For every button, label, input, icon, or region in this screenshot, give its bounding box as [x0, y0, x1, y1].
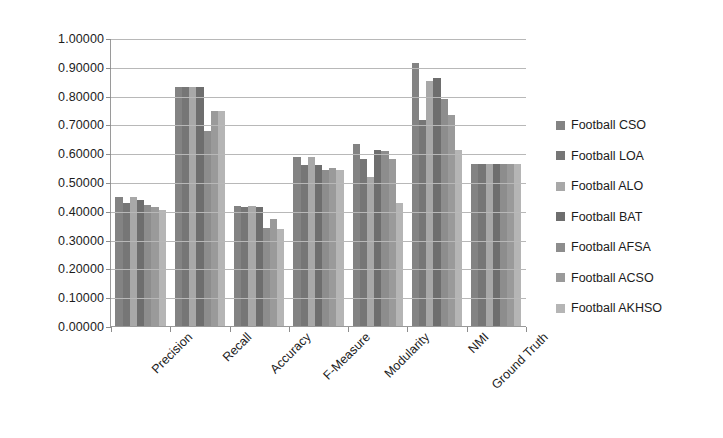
x-tick-label: Precision	[132, 330, 195, 393]
bar	[419, 120, 426, 327]
y-axis: 1.000000.900000.800000.700000.600000.500…	[14, 31, 104, 327]
legend-label: Football AKHSO	[571, 301, 662, 315]
y-tick-mark	[106, 212, 111, 213]
gridline	[111, 154, 526, 155]
gridline	[111, 183, 526, 184]
bar	[493, 164, 500, 327]
chart-legend: Football CSOFootball LOAFootball ALOFoot…	[556, 110, 721, 324]
bar	[256, 207, 263, 327]
bar	[507, 164, 514, 327]
gridline	[111, 39, 526, 40]
legend-label: Football BAT	[571, 210, 642, 224]
bar	[175, 87, 182, 327]
gridline	[111, 269, 526, 270]
bar	[270, 219, 277, 327]
bar	[123, 203, 130, 327]
y-tick-mark	[106, 125, 111, 126]
legend-swatch-icon	[556, 273, 565, 282]
legend-swatch-icon	[556, 121, 565, 130]
y-tick-mark	[106, 298, 111, 299]
bar	[151, 207, 158, 327]
y-tick-label: 0.60000	[58, 147, 104, 161]
bar	[159, 210, 166, 328]
y-tick-mark	[106, 241, 111, 242]
bar	[396, 203, 403, 327]
bar	[277, 229, 284, 327]
y-tick-label: 0.20000	[58, 262, 104, 276]
y-tick-label: 0.70000	[58, 118, 104, 132]
x-axis-labels: PrecisionRecallAccuracyF-MeasureModulari…	[110, 330, 525, 435]
y-tick-mark	[106, 154, 111, 155]
bar	[478, 164, 485, 327]
legend-swatch-icon	[556, 304, 565, 313]
y-tick-mark	[106, 68, 111, 69]
plot-area	[110, 39, 526, 327]
bar	[426, 81, 433, 327]
bar	[241, 207, 248, 327]
legend-swatch-icon	[556, 212, 565, 221]
legend-item[interactable]: Football ACSO	[556, 263, 721, 294]
bar-chart: 1.000000.900000.800000.700000.600000.500…	[0, 0, 723, 438]
bar	[263, 228, 270, 327]
bar	[500, 164, 507, 327]
bar	[448, 115, 455, 327]
legend-swatch-icon	[556, 243, 565, 252]
bar	[196, 87, 203, 327]
y-tick-mark	[106, 97, 111, 98]
bar	[374, 150, 381, 327]
legend-label: Football AFSA	[571, 240, 651, 254]
legend-label: Football LOA	[571, 149, 644, 163]
bar	[367, 177, 374, 327]
bar	[471, 164, 478, 327]
bar	[322, 170, 329, 327]
y-tick-label: 1.00000	[58, 32, 104, 46]
gridline	[111, 68, 526, 69]
legend-item[interactable]: Football CSO	[556, 110, 721, 141]
x-tick-mark	[526, 327, 527, 332]
bar	[336, 170, 343, 327]
y-tick-label: 0.90000	[58, 61, 104, 75]
bar	[455, 150, 462, 327]
bar	[211, 111, 218, 327]
bar	[189, 87, 196, 327]
bar	[514, 164, 521, 327]
bar	[248, 206, 255, 327]
bar	[144, 205, 151, 327]
bar	[234, 206, 241, 327]
bar	[301, 165, 308, 327]
x-tick-label: Recall	[149, 330, 254, 435]
legend-swatch-icon	[556, 182, 565, 191]
legend-item[interactable]: Football BAT	[556, 202, 721, 233]
bar	[381, 151, 388, 327]
legend-label: Football ACSO	[571, 271, 654, 285]
legend-item[interactable]: Football AFSA	[556, 232, 721, 263]
bar	[130, 197, 137, 327]
y-tick-label: 0.50000	[58, 176, 104, 190]
legend-label: Football CSO	[571, 118, 646, 132]
y-tick-mark	[106, 39, 111, 40]
legend-item[interactable]: Football AKHSO	[556, 293, 721, 324]
gridline	[111, 298, 526, 299]
bar	[315, 165, 322, 327]
gridline	[111, 241, 526, 242]
legend-item[interactable]: Football ALO	[556, 171, 721, 202]
y-tick-label: 0.10000	[58, 291, 104, 305]
bar	[353, 144, 360, 327]
y-tick-label: 0.00000	[58, 320, 104, 334]
legend-label: Football ALO	[571, 179, 643, 193]
gridline	[111, 212, 526, 213]
bar	[137, 200, 144, 327]
legend-item[interactable]: Football LOA	[556, 141, 721, 172]
bar	[218, 111, 225, 327]
bar	[441, 99, 448, 327]
y-tick-mark	[106, 183, 111, 184]
y-tick-label: 0.30000	[58, 234, 104, 248]
y-tick-mark	[106, 269, 111, 270]
bar	[182, 87, 189, 327]
bar	[412, 63, 419, 327]
gridline	[111, 125, 526, 126]
y-tick-label: 0.40000	[58, 205, 104, 219]
bar	[329, 168, 336, 327]
bar	[486, 164, 493, 327]
x-axis-line	[111, 326, 526, 327]
